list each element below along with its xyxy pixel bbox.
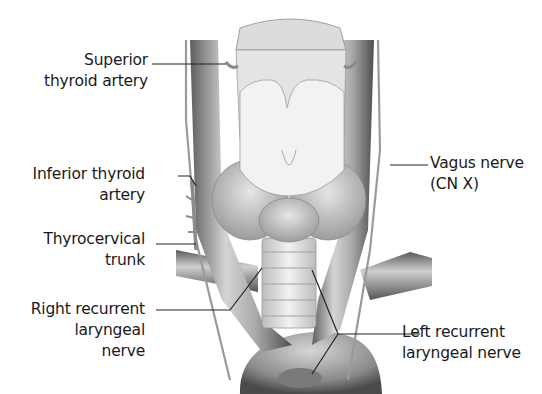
label-line: artery [10, 185, 145, 206]
label-thyrocervical-trunk: Thyrocervical trunk [10, 229, 145, 271]
label-line: Left recurrent [402, 322, 542, 343]
label-line: laryngeal [5, 320, 145, 341]
label-vagus-nerve: Vagus nerve (CN X) [430, 153, 540, 195]
label-inferior-thyroid-artery: Inferior thyroid artery [10, 164, 145, 206]
label-line: thyroid artery [30, 71, 148, 92]
label-left-recurrent-laryngeal-nerve: Left recurrent laryngeal nerve [402, 322, 542, 364]
label-line: Superior [30, 50, 148, 71]
label-right-recurrent-laryngeal-nerve: Right recurrent laryngeal nerve [5, 299, 145, 362]
label-line: laryngeal nerve [402, 343, 542, 364]
anatomy-figure: Superior thyroid artery Inferior thyroid… [0, 0, 542, 394]
label-line: trunk [10, 250, 145, 271]
larynx [236, 19, 346, 196]
label-line: Right recurrent [5, 299, 145, 320]
label-line: Inferior thyroid [10, 164, 145, 185]
label-superior-thyroid-artery: Superior thyroid artery [30, 50, 148, 92]
left-subclavian-artery [360, 252, 432, 300]
label-line: nerve [5, 341, 145, 362]
trachea [262, 238, 316, 328]
label-line: (CN X) [430, 174, 540, 195]
label-line: Vagus nerve [430, 153, 540, 174]
label-line: Thyrocervical [10, 229, 145, 250]
